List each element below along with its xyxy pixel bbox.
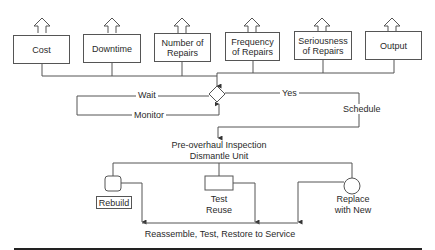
metric-label: Seriousness of Repairs (298, 36, 348, 56)
metric-label: Downtime (92, 44, 132, 54)
rebuild-shape (105, 176, 121, 191)
test-shape (205, 176, 233, 190)
inspection-line2: Dismantle Unit (158, 151, 280, 161)
metric-label: Output (380, 41, 407, 51)
test-label: Test (199, 194, 239, 204)
metric-box-output: Output (365, 31, 422, 60)
monitor-label: Monitor (132, 110, 166, 120)
wait-label: Wait (136, 90, 158, 100)
metric-box-cost: Cost (13, 35, 70, 64)
with-new-label: with New (328, 205, 378, 215)
reuse-label: Reuse (199, 205, 239, 215)
replace-shape (344, 178, 360, 194)
final-step-label: Reassemble, Test, Restore to Service (140, 229, 300, 239)
schedule-label: Schedule (342, 104, 382, 114)
yes-label: Yes (280, 88, 299, 98)
decision-diamond (209, 86, 225, 102)
metric-box-downtime: Downtime (83, 34, 141, 63)
metric-box-seriousness-of-repairs: Seriousness of Repairs (294, 31, 352, 60)
metric-label: Cost (32, 45, 51, 55)
rebuild-label-box: Rebuild (96, 196, 132, 209)
metric-box-frequency-of-repairs: Frequency of Repairs (225, 32, 280, 61)
metric-box-number-of-repairs: Number of Repairs (154, 33, 211, 62)
metric-label: Frequency of Repairs (231, 37, 274, 57)
replace-label: Replace (328, 194, 378, 204)
rebuild-label: Rebuild (99, 198, 130, 208)
inspection-line1: Pre-overhaul Inspection (158, 140, 280, 150)
metric-label: Number of Repairs (161, 38, 203, 58)
